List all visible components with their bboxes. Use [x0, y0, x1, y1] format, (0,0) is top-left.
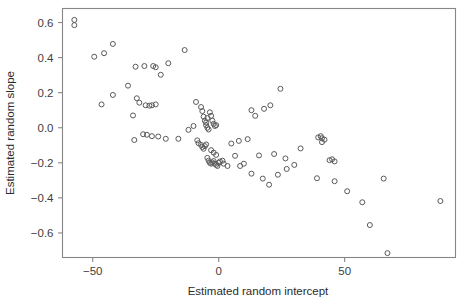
data-point: [149, 134, 154, 139]
data-point: [194, 99, 199, 104]
data-point: [225, 163, 230, 168]
data-point: [163, 136, 168, 141]
data-point: [292, 162, 297, 167]
plot-canvas: −50050 0.60.40.20.0−0.2−0.4−0.6 Estimate…: [0, 0, 471, 305]
data-point: [267, 182, 272, 187]
data-point: [249, 108, 254, 113]
data-point: [345, 189, 350, 194]
x-tick-label: 50: [338, 265, 351, 277]
data-point: [99, 102, 104, 107]
y-tick-label: 0.4: [38, 52, 55, 64]
data-point: [133, 64, 138, 69]
data-point: [385, 251, 390, 256]
data-point: [283, 156, 288, 161]
x-axis-ticks: −50050: [83, 258, 351, 277]
data-point: [268, 103, 273, 108]
data-point: [381, 176, 386, 181]
y-tick-label: −0.6: [31, 227, 54, 239]
y-tick-label: 0.0: [38, 122, 54, 134]
y-axis-ticks: 0.60.40.20.0−0.2−0.4−0.6: [31, 17, 63, 239]
data-point: [182, 48, 187, 53]
data-point: [278, 86, 283, 91]
data-point: [156, 134, 161, 139]
data-point: [275, 172, 280, 177]
y-axis-label: Estimated random slope: [4, 71, 16, 195]
data-point: [332, 179, 337, 184]
data-point: [257, 153, 262, 158]
data-point: [298, 146, 303, 151]
data-point: [102, 51, 107, 56]
data-point: [166, 61, 171, 66]
data-point: [186, 127, 191, 132]
data-point: [438, 199, 443, 204]
data-point: [132, 138, 137, 143]
x-tick-label: −50: [83, 265, 103, 277]
data-point: [158, 72, 163, 77]
data-point: [72, 17, 77, 22]
data-point: [176, 136, 181, 141]
data-point: [210, 118, 215, 123]
data-point: [253, 113, 258, 118]
data-point: [191, 123, 196, 128]
data-point: [262, 106, 267, 111]
data-point: [110, 41, 115, 46]
data-point: [110, 92, 115, 97]
data-point: [241, 161, 246, 166]
y-tick-label: 0.6: [38, 17, 54, 29]
data-point: [126, 83, 131, 88]
data-point: [260, 176, 265, 181]
data-point: [367, 223, 372, 228]
data-point: [137, 100, 142, 105]
data-point: [360, 200, 365, 205]
data-point: [314, 176, 319, 181]
data-point: [245, 137, 250, 142]
x-tick-label: 0: [215, 265, 221, 277]
x-axis-label: Estimated random intercept: [188, 285, 329, 297]
data-point: [249, 171, 254, 176]
data-point: [131, 113, 136, 118]
scatter-plot-figure: −50050 0.60.40.20.0−0.2−0.4−0.6 Estimate…: [0, 0, 471, 305]
data-point: [142, 64, 147, 69]
y-tick-label: 0.2: [38, 87, 54, 99]
y-tick-label: −0.4: [31, 192, 54, 204]
data-point: [272, 152, 277, 157]
data-point: [233, 153, 238, 158]
y-tick-label: −0.2: [31, 157, 54, 169]
data-point: [236, 138, 241, 143]
data-point: [229, 141, 234, 146]
plot-frame: [63, 9, 456, 258]
data-point: [72, 23, 77, 28]
data-point: [284, 166, 289, 171]
data-point-series: [72, 17, 443, 255]
data-point: [92, 54, 97, 59]
